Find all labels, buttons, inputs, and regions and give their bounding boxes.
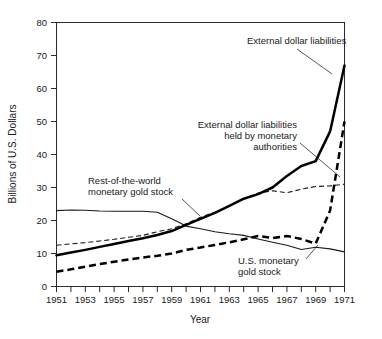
x-tick-1969: 1969 xyxy=(305,294,326,305)
y-tick-0: 0 xyxy=(42,281,47,292)
annotation-row-line1: Rest-of-the-world xyxy=(88,175,161,186)
y-axis-tick-labels: 80 70 60 50 40 30 20 10 0 xyxy=(36,17,47,292)
annotation-held-line1: External dollar liabilities xyxy=(198,119,298,130)
y-tick-20: 20 xyxy=(36,215,47,226)
x-tick-1967: 1967 xyxy=(276,294,297,305)
x-tick-1957: 1957 xyxy=(132,294,153,305)
x-axis-title: Year xyxy=(190,314,211,325)
y-tick-50: 50 xyxy=(36,116,47,127)
y-tick-60: 60 xyxy=(36,83,47,94)
x-tick-1965: 1965 xyxy=(248,294,269,305)
annotation-external-label: External dollar liabilities xyxy=(247,35,347,46)
y-tick-80: 80 xyxy=(36,17,47,28)
annotation-us-line1: U.S. monetary xyxy=(238,255,299,266)
y-tick-10: 10 xyxy=(36,248,47,259)
annotation-held-line3: authorities xyxy=(253,141,297,152)
chart-background xyxy=(0,0,382,339)
x-tick-1951: 1951 xyxy=(46,294,67,305)
y-tick-30: 30 xyxy=(36,182,47,193)
x-tick-1953: 1953 xyxy=(75,294,96,305)
chart-figure: 80 70 60 50 40 30 20 10 0 Billions of U.… xyxy=(0,0,382,339)
line-chart: 80 70 60 50 40 30 20 10 0 Billions of U.… xyxy=(0,0,382,339)
x-axis-tick-labels: 1951 1953 1955 1957 1959 1961 1963 1965 … xyxy=(46,294,355,305)
x-tick-1971: 1971 xyxy=(334,294,355,305)
y-axis-title: Billions of U.S. Dollars xyxy=(7,105,18,204)
y-tick-70: 70 xyxy=(36,50,47,61)
annotation-held-line2: held by monetary xyxy=(224,130,297,141)
x-tick-1961: 1961 xyxy=(190,294,211,305)
y-tick-40: 40 xyxy=(36,149,47,160)
annotation-us-line2: gold stock xyxy=(238,266,281,277)
x-tick-1955: 1955 xyxy=(104,294,125,305)
x-axis-ticks xyxy=(57,287,345,293)
x-tick-1959: 1959 xyxy=(161,294,182,305)
x-tick-1963: 1963 xyxy=(219,294,240,305)
annotation-row-line2: monetary gold stock xyxy=(88,186,173,197)
